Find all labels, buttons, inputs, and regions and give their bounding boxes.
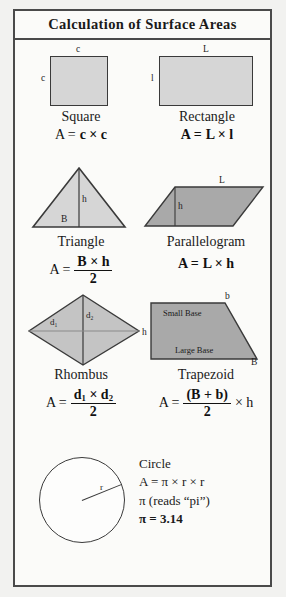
triangle-formula-lhs: A = [50,263,71,278]
rhombus-numerator: d1 × d2 [71,388,116,404]
parallelogram-formula-lhs: A = [178,257,199,272]
rectangle-formula-lhs: A = [181,128,202,143]
rhombus-d2-letter: d [86,310,91,320]
trapezoid-large-base-label: Large Base [175,345,213,355]
rhombus-dim-d2: d2 [86,310,93,320]
rhombus-d2-sub: 2 [91,315,94,321]
triangle-dim-base: B [61,214,67,224]
shape-cell-circle: r Circle A = π × r × r π (reads “pi”) π … [21,435,268,575]
rhombus-formula-lhs: A = [46,396,67,411]
parallelogram-dim-top: L [219,175,225,185]
trapezoid-dim-height: h [142,327,147,337]
triangle-caption: Triangle [21,235,141,250]
rhombus-shape [19,289,143,367]
rhombus-caption: Rhombus [19,368,143,383]
square-shape [50,56,108,106]
trapezoid-caption: Trapezoid [141,368,271,383]
trapezoid-figure: b B h Small Base Large Base [141,289,271,367]
rhombus-denominator: 2 [90,404,97,419]
shape-cell-rhombus: d1 d2 Rhombus A = d1 × d2 2 [19,289,143,419]
trapezoid-fraction: (B + b) 2 [183,388,230,419]
rectangle-caption: Rectangle [143,110,271,125]
circle-pi-value: π = 3.14 [139,510,210,528]
square-dim-left: c [41,73,45,83]
rectangle-shape [159,56,253,106]
shape-cell-triangle: h B Triangle A = B × h 2 [21,163,141,285]
title-bar: Calculation of Surface Areas [15,11,270,40]
trapezoid-dim-B: B [251,357,257,367]
triangle-shape [21,163,141,233]
square-formula-lhs: A = [55,128,76,143]
circle-formula-area: A = π × r × r [139,473,210,491]
parallelogram-caption: Parallelogram [141,235,271,250]
rhombus-d1-letter: d [50,317,55,327]
rectangle-formula: A = L × l [143,128,271,143]
circle-figure: r Circle A = π × r × r π (reads “pi”) π … [21,435,268,555]
parallelogram-formula-body: L × h [203,257,234,272]
triangle-numerator: B × h [74,255,112,271]
rhombus-num-d2-sub: 2 [109,393,113,403]
triangle-fraction: B × h 2 [74,255,112,286]
rhombus-dim-d1: d1 [50,317,57,327]
square-dim-top: c [76,44,80,54]
parallelogram-figure: L h [141,163,271,233]
shape-cell-square: c c Square A = c × c [21,44,141,156]
rhombus-num-times: × [86,387,101,402]
rhombus-num-d1-sub: 1 [82,393,86,403]
rhombus-formula: A = d1 × d2 2 [19,388,143,419]
rhombus-num-d2: d [101,387,109,402]
rectangle-formula-body: L × l [206,128,233,143]
rhombus-figure: d1 d2 [19,289,143,367]
square-caption: Square [21,110,141,125]
trapezoid-small-base-label: Small Base [163,308,201,318]
triangle-figure: h B [21,163,141,233]
square-figure: c c [21,44,141,106]
trapezoid-dim-b: b [225,291,230,301]
trapezoid-formula: A = (B + b) 2 × h [141,388,271,419]
scan-background: Calculation of Surface Areas c c Square … [0,0,286,597]
triangle-denominator: 2 [90,271,97,286]
rhombus-d1-sub: 1 [55,322,58,328]
parallelogram-shape [141,163,271,233]
circle-pi-reads: π (reads “pi”) [139,492,210,510]
circle-caption: Circle [139,455,210,473]
rectangle-dim-top: L [203,44,209,54]
trapezoid-shape [141,289,271,367]
trapezoid-numerator: (B + b) [183,388,230,404]
trapezoid-formula-tail: × h [235,396,253,411]
shape-cell-trapezoid: b B h Small Base Large Base Trapezoid A … [141,289,271,419]
parallelogram-formula: A = L × h [141,257,271,272]
page-title: Calculation of Surface Areas [48,16,237,33]
shape-cell-rectangle: L l Rectangle A = L × l [143,44,271,156]
square-formula-body: c × c [80,128,107,143]
rectangle-dim-left: l [151,73,154,83]
circle-text-block: Circle A = π × r × r π (reads “pi”) π = … [139,455,210,529]
rectangle-figure: L l [143,44,271,106]
rhombus-num-d1: d [74,387,82,402]
poster-frame: Calculation of Surface Areas c c Square … [13,9,272,587]
triangle-formula: A = B × h 2 [21,255,141,286]
circle-radius-label: r [100,482,103,492]
rhombus-fraction: d1 × d2 2 [71,388,116,419]
trapezoid-formula-lhs: A = [159,396,180,411]
trapezoid-denominator: 2 [204,404,211,419]
shape-cell-parallelogram: L h Parallelogram A = L × h [141,163,271,285]
parallelogram-dim-height: h [178,201,183,211]
triangle-dim-height: h [82,194,87,204]
square-formula: A = c × c [21,128,141,143]
